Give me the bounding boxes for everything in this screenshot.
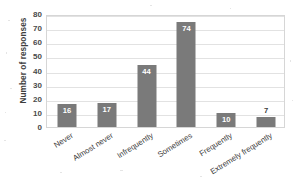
bar-value-label: 10	[222, 116, 230, 124]
bar-value-label: 17	[103, 106, 111, 114]
y-axis-tick-label: 70	[18, 25, 42, 33]
scan-speckle	[6, 52, 7, 54]
bar-value-label: 16	[63, 107, 71, 115]
scan-speckle	[230, 8, 231, 9]
x-axis-category-labels: NeverAlmost neverInfrequentlySometimesFr…	[46, 129, 285, 182]
bar-slot: 44	[127, 16, 167, 127]
bar-slot: 7	[246, 16, 286, 127]
y-axis-tick-label: 20	[18, 96, 42, 104]
scan-speckle	[4, 140, 6, 141]
y-axis-tick-label: 50	[18, 53, 42, 61]
scan-speckle	[290, 60, 291, 62]
scan-speckle	[8, 20, 10, 21]
scan-speckle	[60, 172, 62, 173]
y-axis-tick-label: 60	[18, 39, 42, 47]
bar[interactable]	[177, 22, 196, 127]
bar-slot: 10	[206, 16, 246, 127]
y-axis-tick-label: 30	[18, 82, 42, 90]
y-axis-tick-label: 40	[18, 68, 42, 76]
bar-chart: Number of responses 01020304050607080 16…	[0, 0, 298, 182]
bar-value-label: 74	[182, 25, 190, 33]
plot-area: 16174474107	[46, 15, 285, 128]
bar-slot: 74	[167, 16, 207, 127]
y-axis-tick-label: 0	[18, 124, 42, 132]
y-axis-tick-label: 80	[18, 11, 42, 19]
scan-speckle	[292, 100, 293, 101]
scan-speckle	[150, 5, 152, 6]
bar[interactable]	[257, 117, 276, 127]
scan-speckle	[200, 176, 202, 177]
bar-value-label: 7	[264, 107, 268, 115]
bar-slot: 17	[87, 16, 127, 127]
scan-speckle	[5, 112, 6, 113]
bars-layer: 16174474107	[47, 16, 284, 127]
y-axis-tick-label: 10	[18, 110, 42, 118]
scan-speckle	[120, 170, 123, 171]
bar-value-label: 44	[142, 68, 150, 76]
scan-speckle	[10, 88, 12, 89]
bar-slot: 16	[47, 16, 87, 127]
